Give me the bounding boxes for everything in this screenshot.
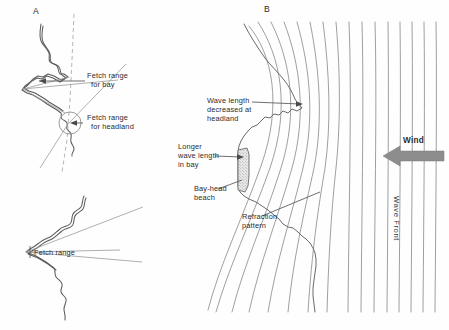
coastal-refraction-figure: A B Fetch range for bay Fetch range for … [0,0,449,330]
refraction-pattern-label-line2: pattern [242,221,266,230]
longer-wave-length-bay-label-line3: in bay [178,160,199,169]
fetch-range-headland-label-line2: for headland [91,122,134,131]
wave-length-headland-label-line1: Wave length [207,96,249,105]
panel-a-upper-coastline [22,24,74,156]
panel-b-leader-wave-length-headland [252,101,303,107]
wind-label: Wind [403,136,424,145]
panel-a-lower-coastline [26,196,86,320]
panel-b-wind-arrow [383,146,444,166]
longer-wave-length-bay-label-line2: wave length [178,151,219,160]
panel-a-reference-dashed-line [62,14,74,172]
panel-label-a: A [33,6,39,16]
panel-b-straight-wave-fronts [348,22,436,312]
fetch-range-bay-label-line1: Fetch range [87,71,128,80]
wave-length-headland-label-line3: headland [207,114,239,123]
wave-length-headland-label-line2: decreased at [207,105,252,114]
bay-head-beach-label-line1: Bay-head [194,184,227,193]
longer-wave-length-bay-label-line1: Longer [178,142,202,151]
fetch-range-headland-label-line1: Fetch range [87,113,128,122]
panel-a-upper-coast-inner [24,26,66,111]
wave-front-label: Wave Front [392,196,401,241]
refraction-pattern-label-line1: Refraction [242,212,277,221]
fetch-range-lower-label: Fetch range [34,248,75,257]
bay-head-beach-label-line2: beach [194,193,215,202]
figure-linework [0,0,449,330]
panel-label-b: B [264,4,270,14]
fetch-range-bay-label-line2: for bay [91,80,115,89]
panel-b-bay-head-beach [238,148,249,192]
